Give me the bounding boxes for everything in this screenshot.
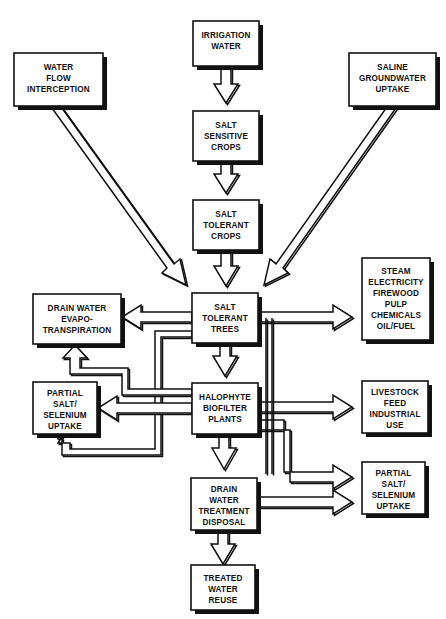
node-label-line: UPTAKE (377, 502, 411, 511)
node-drain-water-evapotranspiration[interactable]: DRAIN WATER EVAPO- TRANSPIRATION (33, 294, 125, 348)
node-label-line: WATER (211, 42, 241, 51)
node-salt-tolerant-crops[interactable]: SALT TOLERANT CROPS (193, 200, 263, 254)
connector-salt-sensitive-to-salt-tolerant-crops (214, 161, 240, 195)
node-label-line: SELENIUM (372, 491, 416, 500)
node-salt-tolerant-trees[interactable]: SALT TOLERANT TREES (192, 293, 262, 347)
node-label-line: SALT (214, 303, 235, 312)
node-label-line: SALT (215, 210, 236, 219)
node-label-line: DRAIN WATER (48, 304, 107, 313)
node-label-line: PLANTS (208, 415, 242, 424)
node-label-line: CHEMICALS (371, 311, 421, 320)
node-partial-salt-selenium-uptake-right[interactable]: PARTIAL SALT/ SELENIUM UPTAKE (362, 462, 429, 518)
node-label-line: FIREWOOD (373, 289, 419, 298)
node-partial-salt-selenium-uptake-left[interactable]: PARTIAL SALT/ SELENIUM UPTAKE (33, 382, 101, 438)
node-label-line: INDUSTRIAL (369, 410, 420, 419)
node-treated-water-reuse[interactable]: TREATED WATER REUSE (191, 565, 259, 614)
node-label-line: SENSITIVE (204, 132, 249, 141)
flowchart-diagram: IRRIGATION WATER WATER FLOW INTERCEPTION… (0, 0, 446, 619)
connector-irrigation-to-salt-sensitive (214, 66, 240, 105)
node-label-line: PULP (385, 300, 408, 309)
connector-drain-treatment-to-treated-water-reuse (211, 530, 237, 566)
node-label-line: REUSE (209, 596, 238, 605)
node-label-line: HALOPHYTE (199, 393, 251, 402)
connector-drain-treatment-to-partial-salt-right (257, 490, 354, 516)
node-label-line: DRAIN (211, 485, 238, 494)
node-label-line: TREATMENT (198, 507, 249, 516)
connector-trees-to-halophyte (213, 343, 239, 378)
node-label-line: SALT (215, 121, 236, 130)
node-label-line: IRRIGATION (201, 31, 250, 40)
node-label-line: UPTAKE (48, 422, 82, 431)
connector-halophyte-to-partial-salt-left (98, 396, 194, 422)
node-label-line: PARTIAL (47, 389, 83, 398)
connector-right-spine-riser (266, 318, 274, 476)
node-label-line: DISPOSAL (202, 518, 245, 527)
node-water-flow-interception[interactable]: WATER FLOW INTERCEPTION (14, 53, 107, 110)
node-saline-groundwater-uptake[interactable]: SALINE GROUNDWATER UPTAKE (349, 53, 440, 110)
node-label-line: STEAM (381, 267, 410, 276)
node-label-line: WATER (209, 496, 239, 505)
node-label-line: TREES (211, 325, 239, 334)
connector-water-flow-interception-to-trees (52, 104, 188, 286)
node-halophyte-biofilter-plants[interactable]: HALOPHYTE BIOFILTER PLANTS (192, 383, 262, 438)
flowchart-canvas: IRRIGATION WATER WATER FLOW INTERCEPTION… (0, 0, 446, 619)
node-salt-sensitive-crops[interactable]: SALT SENSITIVE CROPS (193, 111, 263, 165)
node-label-line: USE (386, 421, 404, 430)
node-label-line: LIVESTOCK (371, 388, 419, 397)
node-label-line: SELENIUM (43, 411, 87, 420)
node-label-line: TOLERANT (203, 221, 249, 230)
node-layer: IRRIGATION WATER WATER FLOW INTERCEPTION… (14, 21, 440, 614)
connector-salt-tolerant-crops-to-trees (214, 250, 240, 288)
node-label-line: INTERCEPTION (27, 85, 90, 94)
node-label-line: FEED (384, 399, 406, 408)
node-label-line: WATER (44, 63, 74, 72)
node-label-line: ELECTRICITY (368, 278, 424, 287)
node-label-line: WATER (208, 585, 238, 594)
node-label-line: EVAPO- (61, 315, 93, 324)
node-label-line: TREATED (203, 574, 242, 583)
node-label-line: GROUNDWATER (359, 74, 426, 83)
connector-halophyte-to-drain-treatment (212, 434, 238, 471)
node-label-line: SALINE (377, 63, 408, 72)
node-irrigation-water[interactable]: IRRIGATION WATER (193, 21, 263, 70)
node-label-line: CROPS (211, 232, 241, 241)
connector-trees-to-evapotranspiration (122, 305, 194, 331)
node-steam-electricity-products[interactable]: STEAM ELECTRICITY FIREWOOD PULP CHEMICAL… (362, 258, 434, 344)
node-label-line: UPTAKE (376, 85, 410, 94)
node-label-line: TOLERANT (202, 314, 248, 323)
node-label-line: SALT/ (53, 400, 77, 409)
node-label-line: BIOFILTER (203, 404, 247, 413)
node-label-line: TRANSPIRATION (43, 326, 112, 335)
node-label-line: FLOW (46, 74, 71, 83)
node-drain-water-treatment-disposal[interactable]: DRAIN WATER TREATMENT DISPOSAL (191, 478, 261, 534)
node-label-line: OIL/FUEL (377, 322, 416, 331)
node-label-line: SALT/ (382, 480, 406, 489)
node-label-line: CROPS (211, 143, 241, 152)
node-livestock-feed-industrial-use[interactable]: LIVESTOCK FEED INDUSTRIAL USE (362, 381, 432, 437)
node-label-line: PARTIAL (376, 469, 412, 478)
